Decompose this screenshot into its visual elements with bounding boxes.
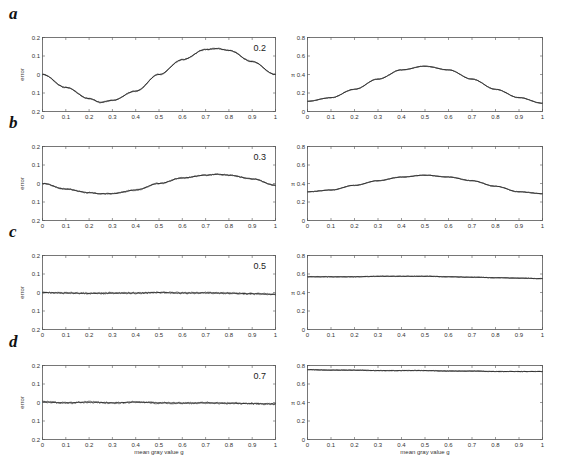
x-tick-label: 0 xyxy=(41,223,45,229)
x-tick-label: 1 xyxy=(274,442,278,448)
x-tick-label: 0.2 xyxy=(85,223,94,229)
y-tick-label: 0.2 xyxy=(297,418,306,424)
x-tick-label: 0.1 xyxy=(327,332,336,338)
x-tick-label: 0.9 xyxy=(248,442,257,448)
y-tick-label: 0 xyxy=(37,72,41,78)
x-tick-label: 0.4 xyxy=(397,114,406,120)
y-axis-label: π xyxy=(291,290,295,296)
y-tick-label: 0.2 xyxy=(32,35,41,41)
x-tick-label: 0.3 xyxy=(108,332,117,338)
y-tick-label: 0.6 xyxy=(297,162,306,168)
y-tick-label: 0.1 xyxy=(32,53,41,59)
x-tick-label: 0.2 xyxy=(85,332,94,338)
x-tick-label: 0 xyxy=(306,442,310,448)
plot-svg: 00.10.20.30.40.50.60.70.80.910.20.100.10… xyxy=(42,365,276,460)
x-tick-label: 0.4 xyxy=(132,223,141,229)
x-tick-label: 0.5 xyxy=(421,114,430,120)
x-tick-label: 0.9 xyxy=(515,442,524,448)
x-tick-label: 0.1 xyxy=(62,114,71,120)
x-tick-label: 0.5 xyxy=(421,223,430,229)
x-tick-label: 0.7 xyxy=(201,442,210,448)
data-line xyxy=(308,66,543,103)
y-tick-label: 0 xyxy=(37,181,41,187)
x-tick-label: 0.5 xyxy=(421,332,430,338)
x-tick-label: 0.7 xyxy=(201,332,210,338)
x-axis-label: mean gray value g xyxy=(134,449,183,455)
y-tick-label: 0.8 xyxy=(297,35,306,41)
x-tick-label: 0.5 xyxy=(155,114,164,120)
x-tick-label: 0.9 xyxy=(248,223,257,229)
x-tick-label: 0.9 xyxy=(515,114,524,120)
plot-d-left: 00.10.20.30.40.50.60.70.80.910.20.100.10… xyxy=(42,365,276,440)
x-tick-label: 0.7 xyxy=(468,442,477,448)
plot-c-left: 00.10.20.30.40.50.60.70.80.910.20.100.10… xyxy=(42,255,276,330)
y-tick-label: 0 xyxy=(37,290,41,296)
x-tick-label: 0.9 xyxy=(515,223,524,229)
plot-svg: 00.10.20.30.40.50.60.70.80.910.80.60.40.… xyxy=(307,255,543,350)
y-tick-label: 0.1 xyxy=(32,381,41,387)
y-tick-label: 0.6 xyxy=(297,53,306,59)
y-tick-label: 0.8 xyxy=(297,363,306,369)
x-tick-label: 0.8 xyxy=(491,114,500,120)
y-tick-label: 0.2 xyxy=(297,90,306,96)
x-tick-label: 0.8 xyxy=(225,114,234,120)
y-axis-label: π xyxy=(291,400,295,406)
y-tick-label: 0.2 xyxy=(32,218,41,224)
x-tick-label: 0 xyxy=(41,114,45,120)
y-tick-label: 0.4 xyxy=(297,181,306,187)
panel-letter-b: b xyxy=(9,113,18,133)
y-axis-label: π xyxy=(291,181,295,187)
x-tick-label: 0.7 xyxy=(201,114,210,120)
x-tick-label: 0.6 xyxy=(444,223,453,229)
plot-d-right: 00.10.20.30.40.50.60.70.80.910.80.60.40.… xyxy=(307,365,543,440)
y-tick-label: 0.2 xyxy=(32,253,41,259)
plot-svg: 00.10.20.30.40.50.60.70.80.910.20.100.10… xyxy=(42,37,276,132)
x-tick-label: 0.9 xyxy=(515,332,524,338)
y-tick-label: 0.1 xyxy=(32,199,41,205)
y-tick-label: 0.6 xyxy=(297,381,306,387)
y-axis-label: error xyxy=(19,177,25,190)
panel-letter-d: d xyxy=(9,332,18,352)
x-tick-label: 0.4 xyxy=(132,114,141,120)
y-tick-label: 0.8 xyxy=(297,253,306,259)
x-tick-label: 0.2 xyxy=(350,223,359,229)
plot-svg: 00.10.20.30.40.50.60.70.80.910.80.60.40.… xyxy=(307,365,543,460)
x-tick-label: 0.8 xyxy=(225,332,234,338)
plot-svg: 00.10.20.30.40.50.60.70.80.910.80.60.40.… xyxy=(307,37,543,132)
data-line xyxy=(308,66,543,103)
x-tick-label: 1 xyxy=(541,442,545,448)
x-tick-label: 0.5 xyxy=(155,442,164,448)
x-tick-label: 0.9 xyxy=(248,332,257,338)
x-tick-label: 0.8 xyxy=(225,223,234,229)
x-tick-label: 0.5 xyxy=(421,442,430,448)
x-tick-label: 0.6 xyxy=(178,223,187,229)
axes-frame xyxy=(308,366,543,440)
x-tick-label: 0.7 xyxy=(468,114,477,120)
plot-b-left: 00.10.20.30.40.50.60.70.80.910.20.100.10… xyxy=(42,146,276,221)
x-tick-label: 0.1 xyxy=(62,223,71,229)
x-tick-label: 0.9 xyxy=(248,114,257,120)
y-axis-label: error xyxy=(19,396,25,409)
x-tick-label: 0.3 xyxy=(374,114,383,120)
x-tick-label: 0.2 xyxy=(350,442,359,448)
y-tick-label: 0.2 xyxy=(32,327,41,333)
y-tick-label: 0.4 xyxy=(297,72,306,78)
x-tick-label: 0.4 xyxy=(132,332,141,338)
x-tick-label: 0.2 xyxy=(350,114,359,120)
x-tick-label: 1 xyxy=(274,332,278,338)
x-tick-label: 0.6 xyxy=(178,114,187,120)
data-line xyxy=(308,175,543,194)
axes-frame xyxy=(308,38,543,112)
x-tick-label: 0.5 xyxy=(155,332,164,338)
x-tick-label: 1 xyxy=(274,223,278,229)
x-tick-label: 0.3 xyxy=(374,223,383,229)
x-tick-label: 0.1 xyxy=(327,114,336,120)
x-tick-label: 1 xyxy=(541,114,545,120)
y-tick-label: 0.8 xyxy=(297,144,306,150)
y-tick-label: 0.2 xyxy=(32,144,41,150)
x-tick-label: 0 xyxy=(41,442,45,448)
y-tick-label: 0.1 xyxy=(32,308,41,314)
data-line xyxy=(308,175,543,194)
y-tick-label: 0.6 xyxy=(297,271,306,277)
x-tick-label: 0.3 xyxy=(108,442,117,448)
